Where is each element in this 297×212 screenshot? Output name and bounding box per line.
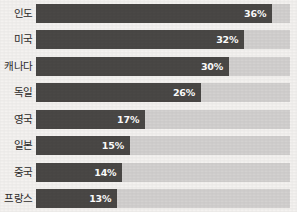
bar-fill[interactable]: 14% xyxy=(36,163,122,182)
bar-fill[interactable]: 15% xyxy=(36,136,130,155)
bar-track: 15% xyxy=(36,136,290,155)
value-label: 14% xyxy=(94,163,122,182)
category-label: 영국 xyxy=(0,110,36,129)
bar-track: 13% xyxy=(36,189,290,208)
value-label: 17% xyxy=(117,110,145,129)
category-label: 독일 xyxy=(0,83,36,102)
value-label: 13% xyxy=(89,189,117,208)
category-label: 인도 xyxy=(0,4,36,23)
chart-row: 미국 32% xyxy=(0,30,290,49)
bar-track: 17% xyxy=(36,110,290,129)
bar-track: 26% xyxy=(36,83,290,102)
category-label: 프랑스 xyxy=(0,189,36,208)
chart-row: 일본 15% xyxy=(0,136,290,155)
bar-fill[interactable]: 13% xyxy=(36,189,117,208)
horizontal-bar-chart: 인도 36% 미국 32% 캐나다 30% 독일 26% xyxy=(0,0,297,212)
bar-fill[interactable]: 32% xyxy=(36,30,244,49)
chart-row: 독일 26% xyxy=(0,83,290,102)
category-label: 미국 xyxy=(0,30,36,49)
value-label: 15% xyxy=(102,136,130,155)
bar-track: 36% xyxy=(36,4,290,23)
chart-row: 프랑스 13% xyxy=(0,189,290,208)
category-label: 캐나다 xyxy=(0,57,36,76)
chart-row: 영국 17% xyxy=(0,110,290,129)
value-label: 26% xyxy=(173,83,201,102)
bar-track: 30% xyxy=(36,57,290,76)
bar-track: 32% xyxy=(36,30,290,49)
value-label: 36% xyxy=(244,4,272,23)
category-label: 중국 xyxy=(0,163,36,182)
category-label: 일본 xyxy=(0,136,36,155)
value-label: 32% xyxy=(216,30,244,49)
value-label: 30% xyxy=(201,57,229,76)
chart-row: 중국 14% xyxy=(0,163,290,182)
bar-fill[interactable]: 30% xyxy=(36,57,229,76)
bar-fill[interactable]: 36% xyxy=(36,4,272,23)
chart-row: 인도 36% xyxy=(0,4,290,23)
bar-fill[interactable]: 17% xyxy=(36,110,145,129)
bar-track: 14% xyxy=(36,163,290,182)
chart-row: 캐나다 30% xyxy=(0,57,290,76)
bar-fill[interactable]: 26% xyxy=(36,83,201,102)
